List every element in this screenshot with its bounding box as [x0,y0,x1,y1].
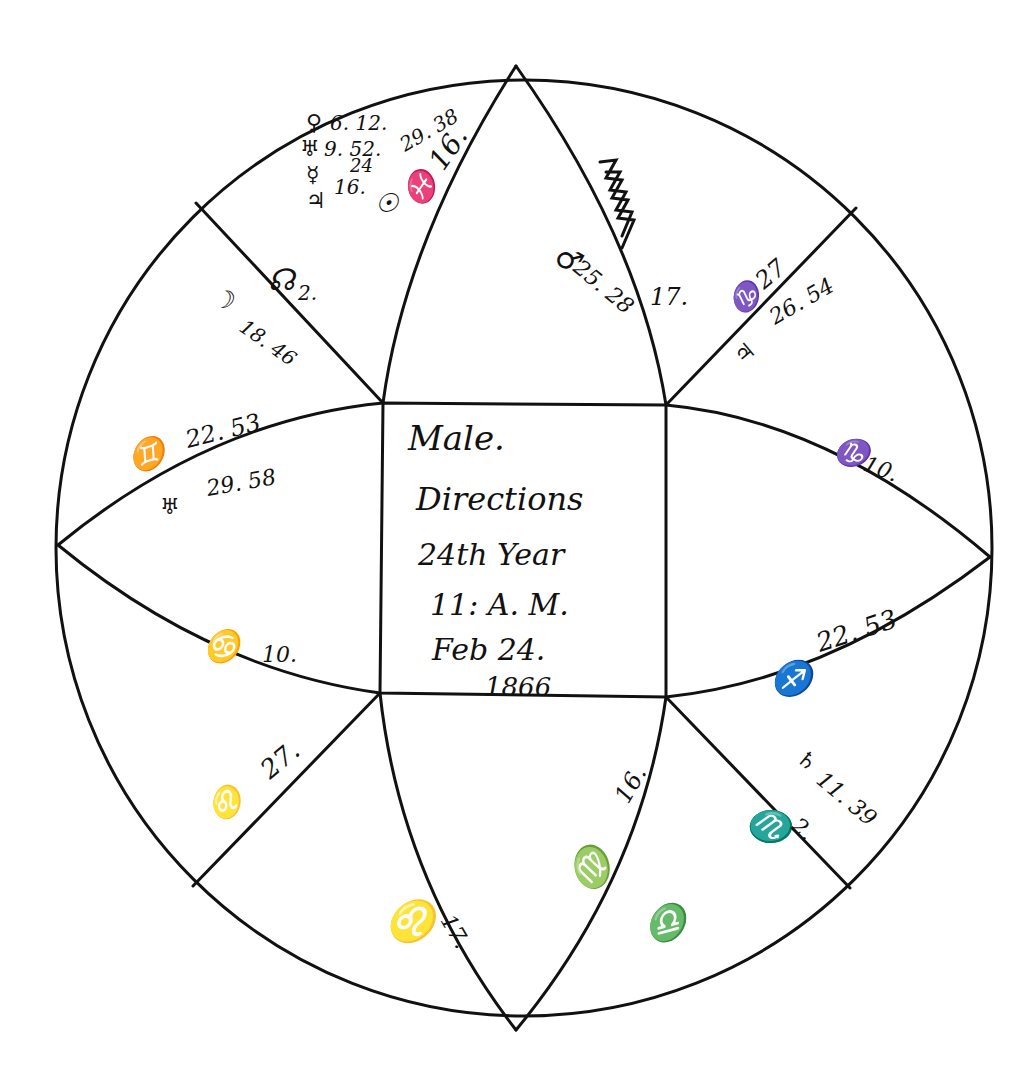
aquarius-wave-icon [600,160,634,248]
center-line-year: 24th Year [417,537,566,572]
center-line-yearnum: 1866 [485,672,551,702]
herschel-degrees: 29. 58 [204,464,278,501]
node-glyph-icon: ☊ [268,262,297,297]
capricorn-degrees: 10. [860,451,901,486]
venus-glyph-icon: ♀ [306,110,322,135]
center-line-directions: Directions [415,480,583,518]
uranus-glyph-icon: ♅ [300,136,320,161]
horoscope-chart: Male. Directions 24th Year 11: A. M. Feb… [0,0,1029,1081]
jupiter-degrees: 16. [334,175,366,199]
virgo-glyph-icon: ♍ [561,834,622,899]
node-degrees: 2. [297,281,317,305]
cancer-glyph-icon: ♋ [200,625,248,667]
mercury-glyph-icon: ☿ [306,162,320,187]
center-line-date: Feb 24. [431,632,545,667]
libra-glyph-icon: ♎ [640,896,698,947]
lens-bottom-left [58,545,380,693]
aquarius-degrees: 17. [650,283,688,311]
moon-degrees: 18. 46 [235,314,301,370]
lens-top-right [666,405,990,557]
jupiter-right-glyph-icon: ♃ [729,337,760,369]
sagittarius-glyph-icon: ♐ [770,658,819,698]
sagittarius-degrees: 22. 53 [812,604,901,658]
center-line-time: 11: A. M. [430,587,569,622]
saturn-degrees: 11. 39 [812,767,882,831]
herschel-glyph-icon: ♅ [160,494,180,519]
venus-degrees: 6. 12. [330,111,387,135]
mercury-degrees: 24 [349,155,373,176]
lens-right-top [516,66,666,405]
saturn-glyph-icon: ♄ [792,745,823,777]
moon-glyph-icon: ☽ [212,286,235,314]
diagonal-top-right [666,208,856,405]
top-left-house-labels: ♀ 6. 12. ♅ 9. 52. ☿ 24 ♃ 16. 29. 38 ☉ ♓ … [300,104,474,218]
center-line-male: Male. [407,418,505,458]
gemini-degrees: 22. 53 [182,408,264,454]
leo-bottom-glyph-icon: ♌ [385,898,442,944]
lens-left-bottom [380,693,516,1030]
leo-bottom-degrees: 17. [436,910,475,953]
cancer-degrees: 10. [262,642,297,667]
leo-glyph-icon: ♌ [201,776,253,827]
jupiter-glyph-icon: ♃ [306,188,326,213]
virgo-degrees: 16. [609,761,652,808]
